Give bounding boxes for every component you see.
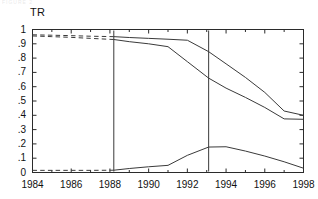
x-tick-label: 1986 [51,179,91,190]
y-tick-label: .5 [4,96,26,106]
plot-canvas [0,0,317,199]
x-tick-label: 1990 [129,179,169,190]
x-tick-label: 1988 [90,179,130,190]
y-tick-label: .7 [4,67,26,77]
y-tick-label: .3 [4,125,26,135]
y-tick-label: .9 [4,39,26,49]
x-tick-label: 1984 [13,179,53,190]
x-tick-label: 1996 [245,179,285,190]
series-line-dashed-upper [33,35,114,37]
plot-frame [33,30,304,173]
y-tick-label: .1 [4,153,26,163]
y-tick-label: 0 [4,168,26,178]
y-tick-label: .4 [4,110,26,120]
x-tick-label: 1998 [284,179,318,190]
y-tick-label: .6 [4,82,26,92]
series-line-dashed-middle [33,36,114,40]
y-tick-label: .2 [4,139,26,149]
x-tick-label: 1992 [167,179,207,190]
y-tick-label: 1 [4,25,26,35]
y-tick-label: .8 [4,53,26,63]
chart-figure: FIGURE 2 TR 0.1.2.3.4.5.6.7.8.91 1984198… [0,0,317,199]
x-tick-label: 1994 [206,179,246,190]
